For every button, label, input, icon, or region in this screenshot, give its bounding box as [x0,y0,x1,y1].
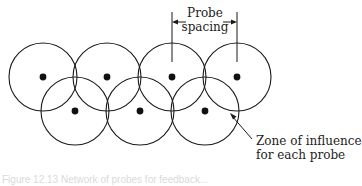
spacing-arrowhead-left-icon [172,20,178,25]
zone-label-line2: for each probe [256,148,362,162]
probe-dot-icon [202,108,209,115]
probe-spacing-label-line1: Probe [180,6,230,20]
probe-spacing-label: Probe spacing [180,6,230,34]
zones-of-influence [9,43,271,145]
probe-dot-icon [169,74,176,81]
probe-dot-icon [104,74,111,81]
zone-pointer-arrowhead-icon [230,113,237,120]
zone-label-line1: Zone of influence [256,134,362,148]
figure-caption: Figure 12.13 Network of probes for feedb… [2,174,208,186]
zone-of-influence-label: Zone of influence for each probe [256,134,362,162]
spacing-arrowhead-right-icon [231,20,237,25]
probe-dot-icon [40,74,47,81]
probe-dot-icon [72,108,79,115]
probe-spacing-label-line2: spacing [180,20,230,34]
probe-points [40,74,241,115]
probe-dot-icon [137,108,144,115]
probe-dot-icon [234,74,241,81]
